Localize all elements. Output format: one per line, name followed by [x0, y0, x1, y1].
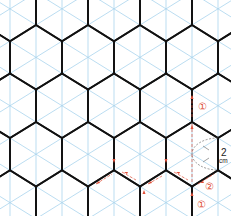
construction-line: [122, 172, 136, 180]
arrow-icon: [113, 159, 116, 163]
dimension-tick: [203, 158, 209, 162]
arrow-icon: [191, 125, 194, 129]
dimension-arc: [192, 138, 218, 170]
arrow-icon: [165, 159, 168, 163]
arrow-icon: [176, 172, 180, 174]
dimension-unit: cm: [219, 157, 228, 164]
construction-line: [174, 172, 188, 180]
arrow-icon: [143, 190, 146, 194]
construction-annotations: 2 cm ① ② ①: [0, 0, 231, 216]
arrow-icon: [96, 181, 100, 184]
step-label-2: ②: [205, 181, 214, 192]
dimension-tick: [203, 146, 209, 150]
arrow-icon: [124, 172, 128, 174]
hexagon-grid-diagram: 2 cm ① ② ①: [0, 0, 231, 216]
step-label-1-upper: ①: [198, 101, 207, 112]
arrow-icon: [191, 192, 194, 196]
step-label-1-lower: ①: [197, 199, 206, 210]
arrow-icon: [191, 95, 194, 99]
arrow-icon: [148, 181, 152, 184]
